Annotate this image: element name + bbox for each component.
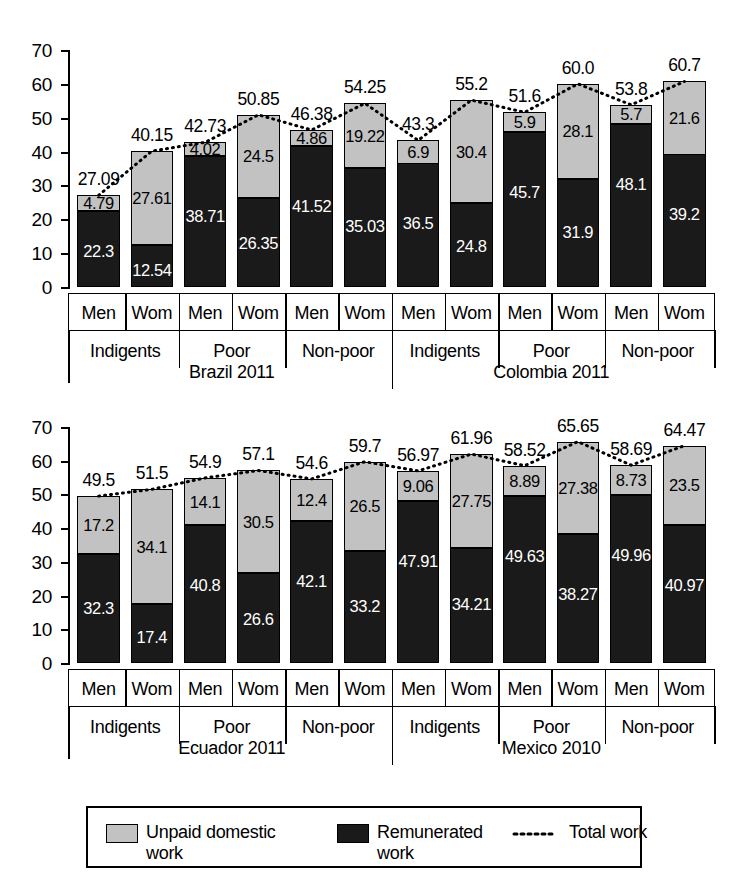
bar-value-unpaid: 28.1 (557, 123, 600, 140)
category-separator (445, 293, 447, 331)
category-separator (551, 669, 553, 707)
bar-value-remunerated: 24.8 (450, 238, 493, 255)
category-label-stratum: Non-poor (278, 342, 398, 360)
bar-value-total: 64.47 (644, 422, 724, 440)
y-axis-tick (61, 427, 68, 429)
bar-value-unpaid: 6.9 (397, 144, 440, 161)
legend-swatch-total (513, 832, 557, 835)
bar-value-remunerated: 22.3 (77, 243, 120, 260)
bar-value-unpaid: 5.7 (610, 106, 653, 123)
bar-value-total: 27.09 (59, 171, 139, 189)
category-separator (285, 293, 287, 331)
category-label-stratum: Non-poor (278, 718, 398, 736)
bar-value-remunerated: 26.35 (237, 235, 280, 252)
bar-value-total: 60.0 (538, 60, 618, 78)
country-separator (392, 293, 394, 389)
bar-value-remunerated: 36.5 (397, 215, 440, 232)
y-axis-tick (61, 596, 68, 598)
bar-value-remunerated: 17.4 (131, 629, 174, 646)
bar-value-remunerated: 49.96 (610, 547, 653, 564)
y-axis-label: 70 (12, 41, 52, 60)
y-axis-tick (61, 461, 68, 463)
bar-value-remunerated: 12.54 (131, 262, 174, 279)
y-axis-tick (61, 50, 68, 52)
bar-value-remunerated: 35.03 (344, 218, 387, 235)
bar-value-unpaid: 17.2 (77, 517, 120, 534)
y-axis-tick (61, 629, 68, 631)
legend-label-remunerated: Remunerated work (377, 822, 537, 863)
bar-value-unpaid: 9.06 (397, 478, 440, 495)
bar-mexico-indigents-wom (450, 454, 493, 663)
category-separator (179, 293, 181, 331)
category-separator (125, 669, 127, 707)
bar-colombia-non-poor-men (610, 105, 653, 287)
bar-value-unpaid: 8.73 (610, 472, 653, 489)
category-label-sex: Wom (652, 304, 716, 322)
bar-value-unpaid: 5.9 (503, 114, 546, 131)
y-axis-label: 70 (12, 418, 52, 437)
axis-edge-rule-right (714, 330, 716, 368)
bar-value-total: 43.3 (378, 116, 458, 134)
bar-value-unpaid: 27.61 (131, 190, 174, 207)
bar-segment-remunerated (397, 501, 440, 663)
category-separator (445, 669, 447, 707)
bar-segment-remunerated (610, 495, 653, 663)
bar-value-total: 46.38 (272, 106, 352, 124)
category-separator (338, 293, 340, 331)
bar-value-total: 58.52 (485, 442, 565, 460)
legend-swatch-unpaid (106, 824, 138, 843)
bar-value-remunerated: 41.52 (290, 198, 333, 215)
bar-value-total: 60.7 (644, 57, 724, 75)
bar-value-remunerated: 42.1 (290, 573, 333, 590)
axis-edge-rule (68, 723, 70, 759)
category-label-stratum: Poor (491, 718, 611, 736)
category-label-country: Colombia 2011 (451, 363, 651, 381)
bar-value-total: 54.25 (325, 79, 405, 97)
bar-value-unpaid: 8.89 (503, 473, 546, 490)
chart-legend: Unpaid domestic work Remunerated work To… (86, 806, 642, 868)
y-axis-tick (61, 287, 68, 289)
category-label-country: Ecuador 2011 (132, 739, 332, 757)
y-axis-tick (61, 494, 68, 496)
y-axis-label: 50 (12, 109, 52, 128)
y-axis-label: 40 (12, 519, 52, 538)
bar-value-unpaid: 12.4 (290, 492, 333, 509)
y-axis-tick (61, 663, 68, 665)
chart-panel-top: 01020304050607022.34.7927.0912.5427.6140… (0, 0, 730, 392)
bar-value-remunerated: 26.6 (237, 611, 280, 628)
category-label-stratum: Poor (172, 718, 292, 736)
legend-swatch-remunerated (337, 824, 369, 843)
bar-value-unpaid: 23.5 (663, 477, 706, 494)
y-axis-tick (61, 528, 68, 530)
y-axis-tick (61, 84, 68, 86)
y-axis-tick (61, 118, 68, 120)
bar-value-total: 56.97 (378, 447, 458, 465)
y-axis-tick (61, 219, 68, 221)
y-axis-label: 40 (12, 143, 52, 162)
legend-label-unpaid-line2: work (146, 843, 183, 863)
y-axis-label: 30 (12, 553, 52, 572)
y-axis-label: 0 (12, 654, 52, 673)
category-separator (232, 669, 234, 707)
y-axis-label: 20 (12, 587, 52, 606)
bar-value-unpaid: 27.38 (557, 480, 600, 497)
category-separator (179, 669, 181, 707)
bar-value-unpaid: 4.79 (77, 195, 120, 212)
category-separator (338, 669, 340, 707)
category-label-stratum: Non-poor (598, 342, 718, 360)
y-axis-label: 50 (12, 485, 52, 504)
bar-value-remunerated: 38.71 (184, 208, 227, 225)
category-label-stratum: Poor (491, 342, 611, 360)
y-axis-tick (61, 152, 68, 154)
category-separator (125, 293, 127, 331)
y-axis-label: 0 (12, 278, 52, 297)
bar-value-unpaid: 30.5 (237, 514, 280, 531)
bar-value-remunerated: 47.91 (397, 553, 440, 570)
category-label-stratum: Non-poor (598, 718, 718, 736)
category-label-stratum: Indigents (65, 342, 185, 360)
y-axis-label: 20 (12, 210, 52, 229)
bar-value-unpaid: 24.5 (237, 148, 280, 165)
bar-value-remunerated: 33.2 (344, 598, 387, 615)
bar-value-remunerated: 40.8 (184, 577, 227, 594)
category-separator (498, 293, 500, 331)
